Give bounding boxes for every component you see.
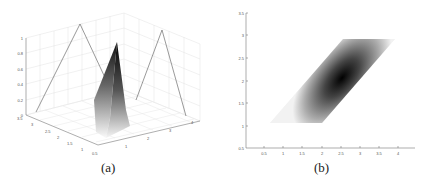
y-tick: 1 [81, 147, 84, 152]
y-tick: 3 [31, 122, 34, 127]
panel-b-heatmap: 3.5 3 2.5 2 1.5 1 0.5 0.5 1 1.5 2 2.5 3 … [215, 0, 431, 186]
x-tick: 1.5 [299, 151, 305, 156]
x-tick: 2 [321, 151, 324, 156]
surface-plot: 1 0.8 0.6 0.4 0.2 0 3.5 3 2.5 2 1.5 1 0.… [0, 0, 215, 186]
caption-b: (b) [314, 160, 329, 176]
x-tick: 3 [359, 151, 362, 156]
x-tick: 3 [169, 128, 172, 133]
x-tick: 3.5 [376, 151, 382, 156]
y-tick: 0.5 [92, 151, 98, 156]
x-axis-ticks: 0.5 1 1.5 2 2.5 3 3.5 4 [261, 151, 400, 156]
y-tick: 3.5 [238, 11, 244, 16]
y-tick: 3 [242, 33, 245, 38]
y-tick: 2 [57, 135, 60, 140]
x-tick: 2.5 [338, 151, 344, 156]
x-tick: 0.5 [261, 151, 267, 156]
y-tick: 1.5 [67, 141, 73, 146]
kernel-support [255, 30, 405, 130]
x-tick: 1 [282, 151, 285, 156]
y-tick: 2.5 [238, 56, 244, 61]
heatmap-plot: 3.5 3 2.5 2 1.5 1 0.5 0.5 1 1.5 2 2.5 3 … [215, 0, 431, 186]
y-axis-ticks: 3.5 3 2.5 2 1.5 1 0.5 [238, 11, 244, 151]
z-tick: 0.8 [17, 51, 23, 56]
caption-a: (a) [101, 160, 115, 176]
y-tick: 1 [242, 124, 245, 129]
right-depth-axis-ticks: 1 2 3 4 [125, 120, 194, 149]
y-tick: 2.5 [45, 129, 51, 134]
x-tick: 4 [397, 151, 400, 156]
y-tick: 1.5 [238, 101, 244, 106]
z-tick: 0.4 [17, 82, 23, 87]
x-tick: 1 [125, 144, 128, 149]
y-tick: 3.5 [17, 116, 23, 121]
z-tick: 0.2 [17, 98, 23, 103]
x-tick: 2 [147, 136, 150, 141]
y-tick: 2 [242, 79, 245, 84]
z-axis-ticks: 1 0.8 0.6 0.4 0.2 0 [17, 36, 23, 118]
y-tick: 0.5 [238, 146, 244, 151]
z-tick: 1 [21, 36, 24, 41]
left-depth-axis-line [26, 115, 98, 145]
panel-a-3d-surface: 1 0.8 0.6 0.4 0.2 0 3.5 3 2.5 2 1.5 1 0.… [0, 0, 215, 186]
z-tick: 0.6 [17, 67, 23, 72]
